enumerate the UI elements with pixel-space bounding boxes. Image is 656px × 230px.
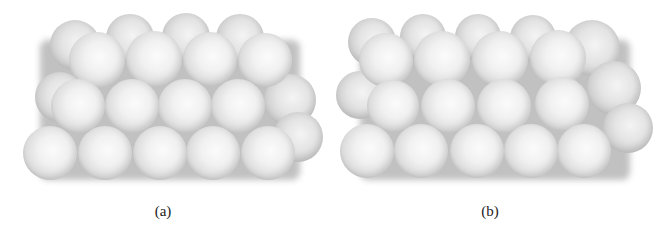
sphere-atom (535, 77, 589, 131)
panel-b: (b) (0, 0, 656, 230)
sphere-atom (450, 124, 504, 178)
panel-b-label: (b) (481, 203, 499, 220)
sphere-atom (340, 124, 394, 178)
sphere-packing-figure: (a) (b) (0, 0, 656, 230)
sphere-atom (359, 33, 413, 87)
sphere-atom (557, 124, 611, 178)
sphere-atom (394, 124, 448, 178)
sphere-atom (504, 124, 558, 178)
